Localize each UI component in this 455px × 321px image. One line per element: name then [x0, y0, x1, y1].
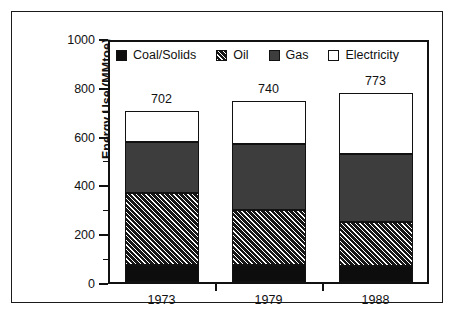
y-axis-tick-major [99, 234, 108, 236]
bar-total-label-1988: 773 [339, 74, 413, 88]
legend-label: Gas [286, 48, 309, 62]
legend-entry-oil: Oil [216, 48, 248, 62]
bar-segment-1973-gas [125, 142, 199, 193]
y-axis-ticks: 02004006008001000 [12, 12, 108, 284]
legend-entry-coal-solids: Coal/Solids [116, 48, 196, 62]
x-axis-tick [322, 284, 324, 291]
bar-total-label-1973: 702 [125, 92, 199, 106]
y-axis-tick-label: 600 [74, 131, 95, 145]
bar-stack-1979: 740 [232, 38, 306, 282]
y-axis-tick-major [99, 137, 108, 139]
legend-label: Electricity [345, 48, 398, 62]
y-axis-tick-label: 1000 [67, 33, 95, 47]
bar-segment-1973-coal-solids [125, 265, 199, 282]
figure-outer-frame: Energy Use (MMtoe) 02004006008001000 197… [11, 11, 443, 303]
x-axis-category-label-1988: 1988 [362, 293, 390, 307]
bar-group: 702740773 [110, 42, 427, 282]
legend-swatch-oil-icon [216, 50, 227, 61]
legend-entry-electricity: Electricity [328, 48, 398, 62]
y-axis-tick-label: 0 [88, 277, 95, 291]
bar-segment-1973-electricity [125, 111, 199, 142]
y-axis-tick-label: 800 [74, 82, 95, 96]
y-axis-tick-major [99, 283, 108, 285]
y-axis-tick-label: 200 [74, 228, 95, 242]
y-axis-tick-major [99, 88, 108, 90]
legend-label: Oil [233, 48, 248, 62]
bar-segment-1979-electricity [232, 101, 306, 143]
legend-swatch-gas-icon [269, 50, 280, 61]
legend-swatch-coal-icon [116, 50, 127, 61]
y-axis-tick-label: 400 [74, 179, 95, 193]
bar-stack-1988: 773 [339, 38, 413, 282]
x-axis-category-label-1979: 1979 [255, 293, 283, 307]
bar-segment-1988-electricity [339, 93, 413, 154]
legend-label: Coal/Solids [133, 48, 196, 62]
x-axis-category-label-1973: 1973 [148, 293, 176, 307]
bar-segment-1979-gas [232, 144, 306, 210]
plot-area: 702740773 [108, 40, 429, 284]
y-axis-tick-major [99, 185, 108, 187]
bar-stack-1973: 702 [125, 38, 199, 282]
x-axis-tick [215, 284, 217, 291]
bar-segment-1988-coal-solids [339, 266, 413, 282]
bar-segment-1979-oil [232, 210, 306, 266]
x-axis-ticks [108, 284, 429, 292]
bar-segment-1979-coal-solids [232, 265, 306, 282]
legend-entry-gas: Gas [269, 48, 309, 62]
legend-swatch-electricity-icon [328, 50, 339, 61]
bar-total-label-1979: 740 [232, 82, 306, 96]
bar-segment-1973-oil [125, 193, 199, 265]
chart-legend: Coal/SolidsOilGasElectricity [116, 48, 419, 62]
bar-segment-1988-gas [339, 154, 413, 222]
bar-segment-1988-oil [339, 222, 413, 266]
y-axis-tick-major [99, 39, 108, 41]
